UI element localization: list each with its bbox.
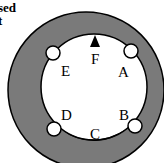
ring-diagram: A B C D E F	[0, 0, 164, 163]
label-c: C	[90, 126, 100, 142]
label-f: F	[91, 51, 99, 67]
hole-d	[47, 122, 61, 136]
label-a: A	[118, 64, 129, 80]
label-d: D	[61, 107, 72, 123]
label-b: B	[119, 107, 129, 123]
hole-b	[128, 119, 142, 133]
hole-e	[46, 46, 60, 60]
hole-a	[124, 44, 138, 58]
label-e: E	[61, 63, 70, 79]
